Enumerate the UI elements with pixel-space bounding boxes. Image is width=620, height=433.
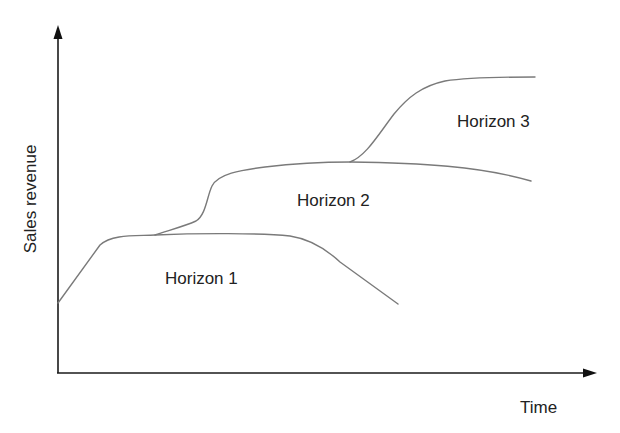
three-horizons-diagram: [0, 0, 620, 433]
y-axis-arrow-icon: [54, 25, 63, 39]
horizon-2-label: Horizon 2: [297, 192, 370, 209]
x-axis-label: Time: [520, 399, 557, 416]
x-axis-arrow-icon: [583, 369, 597, 378]
y-axis-label: Sales revenue: [22, 145, 39, 254]
horizon-3-label: Horizon 3: [457, 113, 530, 130]
horizon-1-label: Horizon 1: [165, 270, 238, 287]
